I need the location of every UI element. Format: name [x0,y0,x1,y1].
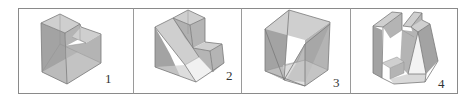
solid-1 [41,14,101,84]
solid-2 [155,10,224,82]
solid-3 [265,10,330,86]
label-2: 2 [226,68,233,83]
label-3: 3 [333,75,340,90]
label-4: 4 [438,76,445,91]
label-1: 1 [105,71,112,86]
solid-4 [373,12,438,84]
figure-panel: 1 2 [0,0,473,102]
